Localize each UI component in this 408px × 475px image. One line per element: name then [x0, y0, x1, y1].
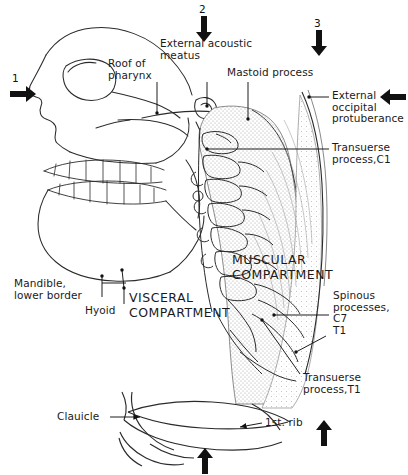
figure-canvas: 1 2 3 Roof of pharynx External acoustic … [0, 0, 408, 475]
label-hyoid: Hyoid [85, 305, 116, 317]
label-mastoid-process: Mastoid process [227, 67, 313, 79]
marker-arrow-bottom-right [316, 420, 332, 450]
marker-arrow-bottom-left [197, 448, 213, 475]
label-transverse-process-c1: Transuerse process,C1 [332, 142, 391, 165]
label-mandible-lower-border: Mandible, lower border [14, 278, 82, 301]
label-transverse-process-t1: Transuerse process,T1 [303, 372, 361, 395]
marker-arrow-3 [311, 30, 327, 60]
anatomy-illustration [0, 0, 408, 475]
label-external-occipital-protuberance: External occipital protuberance [332, 90, 404, 125]
label-muscular-compartment: MUSCULAR COMPARTMENT [232, 253, 333, 282]
label-first-rib: 1st. rib [265, 417, 303, 429]
marker-label-2: 2 [199, 3, 206, 15]
label-roof-of-pharynx: Roof of pharynx [108, 58, 152, 81]
marker-arrow-1 [10, 86, 36, 106]
label-spinous-processes: Spinous processes, C7 T1 [333, 290, 390, 336]
marker-label-1: 1 [12, 72, 19, 84]
label-visceral-compartment: VISCERAL COMPARTMENT [129, 291, 230, 320]
marker-label-3: 3 [314, 17, 321, 29]
label-external-acoustic-meatus: External acoustic meatus [160, 38, 252, 61]
label-clavicle: Clauicle [57, 411, 99, 423]
